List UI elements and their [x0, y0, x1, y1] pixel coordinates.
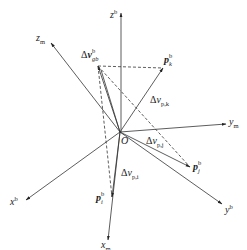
- origin-label: O: [121, 136, 128, 146]
- dv-pk-dashed: [98, 66, 163, 68]
- x-m-label: xm: [101, 240, 111, 250]
- y-b-label: yb: [225, 205, 233, 215]
- p-i-label: pbi: [96, 193, 109, 205]
- z-b-label: zb: [110, 10, 117, 20]
- z-m-label: zm: [36, 33, 45, 43]
- dv-pi-label: Δvp,i: [121, 168, 139, 178]
- p-j-label: pbj: [193, 162, 206, 174]
- y-m-axis: [120, 124, 226, 132]
- dv-pi-dashed: [98, 66, 112, 197]
- dv-gb-label: Δvbgb: [81, 50, 100, 62]
- dv-pj-dashed: [98, 66, 190, 167]
- dv-pj-label: Δvp,j: [146, 136, 164, 146]
- y-m-label: ym: [229, 117, 239, 127]
- p-k-label: pbk: [164, 55, 177, 67]
- p-i-vector: [112, 132, 120, 197]
- dv-pk-label: Δvp,k: [150, 95, 169, 105]
- x-b-label: xb: [10, 197, 18, 207]
